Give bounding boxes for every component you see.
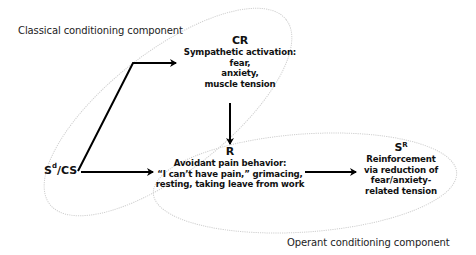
r-line: Avoidant pain behavior: — [150, 158, 310, 169]
sr-line: related tension — [353, 186, 449, 197]
sr-line: Reinforcement — [353, 154, 449, 165]
sr-line: fear/anxiety- — [353, 175, 449, 186]
sr-title: SR — [353, 141, 449, 154]
cr-line: muscle tension — [175, 79, 305, 90]
sd-cs-sup: d — [52, 162, 57, 170]
node-cr: CR Sympathetic activation: fear, anxiety… — [175, 34, 305, 89]
node-sd-cs: Sd/CS — [44, 164, 77, 177]
r-line: resting, taking leave from work — [150, 179, 310, 190]
cr-line: fear, — [175, 58, 305, 69]
sd-cs-rest: /CS — [57, 164, 77, 177]
cr-title: CR — [175, 34, 305, 47]
cr-line: Sympathetic activation: — [175, 47, 305, 58]
r-line: “I can’t have pain,” grimacing, — [150, 169, 310, 180]
cr-line: anxiety, — [175, 68, 305, 79]
sr-line: via reduction of — [353, 165, 449, 176]
node-sr: SR Reinforcement via reduction of fear/a… — [353, 141, 449, 196]
node-r: R Avoidant pain behavior: “I can’t have … — [150, 145, 310, 190]
r-title: R — [150, 145, 310, 158]
classical-component-label: Classical conditioning component — [18, 25, 183, 36]
sr-title-sup: R — [402, 141, 407, 149]
operant-component-label: Operant conditioning component — [287, 237, 450, 248]
sd-cs-base: S — [44, 164, 52, 177]
